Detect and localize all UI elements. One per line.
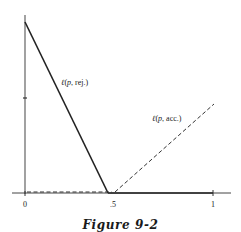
- figure-caption: Figure 9-2: [0, 218, 241, 232]
- chart-plot-area: [0, 0, 241, 232]
- rej-line: [25, 22, 108, 193]
- rej-series-label: ℓ(p, rej.): [61, 79, 88, 87]
- x-tick-label-half: .5: [110, 201, 116, 209]
- acc-series-label: ℓ(p, acc.): [152, 115, 181, 123]
- x-tick-label-1: 1: [211, 201, 215, 209]
- figure: ℓ(p, rej.) ℓ(p, acc.) 0 .5 1 Figure 9-2: [0, 0, 241, 232]
- x-tick-label-0: 0: [23, 201, 27, 209]
